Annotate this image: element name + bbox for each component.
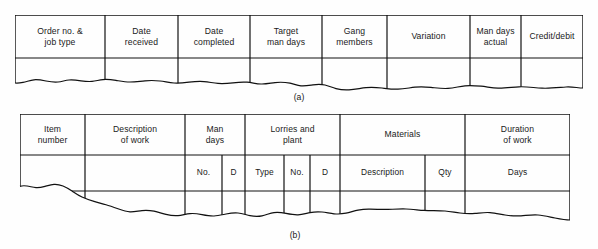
figure-b-rules bbox=[0, 108, 598, 249]
figure-a-caption: (a) bbox=[279, 92, 319, 102]
figure-b-caption: (b) bbox=[275, 230, 315, 240]
torn-edge-a bbox=[15, 79, 583, 89]
torn-edge-b bbox=[20, 184, 570, 220]
figure-b: Item number Description of work Man days… bbox=[0, 108, 598, 249]
figure-a: Order no. & job type Date received Date … bbox=[0, 0, 598, 108]
